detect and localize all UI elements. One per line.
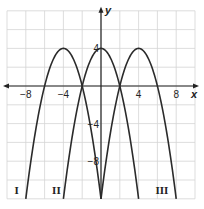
y-axis-label: y — [104, 4, 112, 16]
curve-label-III: III — [156, 184, 169, 196]
y-tick-label: −8 — [88, 156, 100, 167]
x-tick-label: −4 — [58, 89, 70, 100]
x-axis-label: x — [190, 88, 198, 100]
x-tick-label: 4 — [136, 89, 142, 100]
curve-label-I: I — [15, 184, 19, 196]
x-tick-label: 8 — [173, 89, 179, 100]
y-axis-up-arrow-icon — [99, 7, 104, 13]
x-tick-label: −8 — [20, 89, 32, 100]
y-tick-label: 4 — [93, 43, 99, 54]
parabola-graph: −8−4484−4−8xyIIIIII — [0, 0, 204, 209]
curve-label-II: II — [52, 184, 61, 196]
axes — [3, 7, 199, 199]
x-axis-left-arrow-icon — [3, 84, 9, 89]
y-tick-label: −4 — [88, 119, 100, 130]
